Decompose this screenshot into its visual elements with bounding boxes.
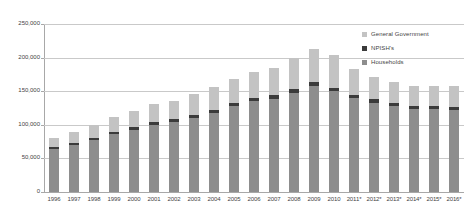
x-axis-label: 2015* bbox=[424, 196, 444, 216]
bar-segment-households bbox=[229, 106, 239, 192]
bar-segment-general-government bbox=[189, 94, 199, 116]
bar-segment-households bbox=[209, 113, 219, 192]
bar-segment-households bbox=[409, 109, 419, 192]
bar-slot bbox=[164, 24, 184, 192]
legend-item[interactable]: General Government bbox=[362, 30, 429, 38]
bar-segment-households bbox=[49, 149, 59, 192]
bar-slot bbox=[104, 24, 124, 192]
legend-item-label: General Government bbox=[371, 31, 429, 37]
bar-segment-households bbox=[429, 109, 439, 192]
x-axis-label: 2007 bbox=[264, 196, 284, 216]
stacked-bar[interactable] bbox=[389, 82, 399, 192]
y-axis-tick: 150,000 bbox=[0, 91, 44, 92]
bar-segment-general-government bbox=[69, 132, 79, 143]
stacked-bar[interactable] bbox=[89, 125, 99, 192]
stacked-bar[interactable] bbox=[409, 86, 419, 192]
bar-segment-general-government bbox=[249, 72, 259, 98]
bar-segment-general-government bbox=[449, 86, 459, 108]
legend-swatch-icon bbox=[362, 60, 367, 65]
bar-slot bbox=[84, 24, 104, 192]
stacked-bar[interactable] bbox=[309, 49, 319, 192]
stacked-bar[interactable] bbox=[149, 104, 159, 192]
stacked-bar[interactable] bbox=[369, 77, 379, 192]
y-axis-tick-label: 50,000 bbox=[22, 154, 40, 160]
stacked-bar[interactable] bbox=[289, 58, 299, 192]
bar-segment-households bbox=[109, 134, 119, 192]
y-axis-tick: 250,000 bbox=[0, 24, 44, 25]
bar-segment-households bbox=[89, 140, 99, 192]
stacked-bar[interactable] bbox=[449, 86, 459, 192]
legend-item-label: NPISH's bbox=[371, 45, 394, 51]
bar-slot bbox=[64, 24, 84, 192]
bar-slot bbox=[184, 24, 204, 192]
y-axis-tick: 0 bbox=[0, 192, 44, 193]
y-axis-tick-label: 150,000 bbox=[18, 87, 40, 93]
x-axis-label: 2006 bbox=[244, 196, 264, 216]
x-axis-label: 2001 bbox=[144, 196, 164, 216]
x-axis-label: 2010 bbox=[324, 196, 344, 216]
bar-segment-households bbox=[449, 110, 459, 192]
bar-segment-general-government bbox=[129, 111, 139, 127]
stacked-bar[interactable] bbox=[49, 138, 59, 192]
bar-segment-general-government bbox=[169, 101, 179, 120]
y-axis-tick-label: 250,000 bbox=[18, 20, 40, 26]
legend-item-label: Households bbox=[371, 59, 404, 65]
y-axis-tick-label: 200,000 bbox=[18, 54, 40, 60]
x-axis-label: 2014* bbox=[404, 196, 424, 216]
legend-item[interactable]: NPISH's bbox=[362, 44, 429, 52]
bar-segment-general-government bbox=[209, 87, 219, 110]
bar-slot bbox=[224, 24, 244, 192]
bar-segment-general-government bbox=[229, 79, 239, 103]
stacked-bar-chart: 250,000200,000150,000100,00050,0000 1996… bbox=[0, 0, 473, 222]
x-axis-label: 2012* bbox=[364, 196, 384, 216]
bar-slot bbox=[204, 24, 224, 192]
bar-segment-households bbox=[69, 145, 79, 192]
bar-segment-general-government bbox=[89, 125, 99, 138]
bar-slot bbox=[44, 24, 64, 192]
stacked-bar[interactable] bbox=[229, 79, 239, 192]
stacked-bar[interactable] bbox=[349, 69, 359, 192]
y-axis-tick: 100,000 bbox=[0, 125, 44, 126]
bar-segment-general-government bbox=[349, 69, 359, 95]
stacked-bar[interactable] bbox=[429, 86, 439, 192]
axis-baseline bbox=[44, 192, 464, 193]
stacked-bar[interactable] bbox=[329, 55, 339, 192]
stacked-bar[interactable] bbox=[189, 94, 199, 192]
bar-slot bbox=[324, 24, 344, 192]
bar-segment-households bbox=[129, 130, 139, 192]
bar-segment-general-government bbox=[389, 82, 399, 103]
stacked-bar[interactable] bbox=[69, 132, 79, 192]
bar-segment-households bbox=[149, 125, 159, 192]
bar-segment-households bbox=[269, 99, 279, 192]
bar-slot bbox=[344, 24, 364, 192]
bar-segment-households bbox=[189, 118, 199, 192]
bar-slot bbox=[304, 24, 324, 192]
bar-segment-general-government bbox=[369, 77, 379, 99]
stacked-bar[interactable] bbox=[169, 101, 179, 192]
stacked-bar[interactable] bbox=[129, 111, 139, 192]
y-axis-tick-label: 100,000 bbox=[18, 121, 40, 127]
x-axis-label: 2009 bbox=[304, 196, 324, 216]
stacked-bar[interactable] bbox=[209, 87, 219, 192]
legend-item[interactable]: Households bbox=[362, 58, 429, 66]
x-axis-label: 2016* bbox=[444, 196, 464, 216]
x-axis-label: 2013* bbox=[384, 196, 404, 216]
x-axis-label: 2002 bbox=[164, 196, 184, 216]
x-axis-label: 2005 bbox=[224, 196, 244, 216]
x-axis-label: 2000 bbox=[124, 196, 144, 216]
chart-legend: General GovernmentNPISH'sHouseholds bbox=[362, 30, 429, 66]
bar-segment-households bbox=[349, 98, 359, 192]
bar-segment-general-government bbox=[309, 49, 319, 82]
stacked-bar[interactable] bbox=[249, 72, 259, 192]
bar-slot bbox=[124, 24, 144, 192]
bar-segment-general-government bbox=[109, 117, 119, 132]
bar-segment-households bbox=[249, 101, 259, 192]
bar-segment-general-government bbox=[409, 86, 419, 106]
bar-segment-households bbox=[389, 106, 399, 192]
stacked-bar[interactable] bbox=[109, 117, 119, 192]
legend-swatch-icon bbox=[362, 46, 367, 51]
legend-swatch-icon bbox=[362, 32, 367, 37]
stacked-bar[interactable] bbox=[269, 68, 279, 192]
bar-segment-general-government bbox=[329, 55, 339, 87]
y-axis-tick: 50,000 bbox=[0, 158, 44, 159]
